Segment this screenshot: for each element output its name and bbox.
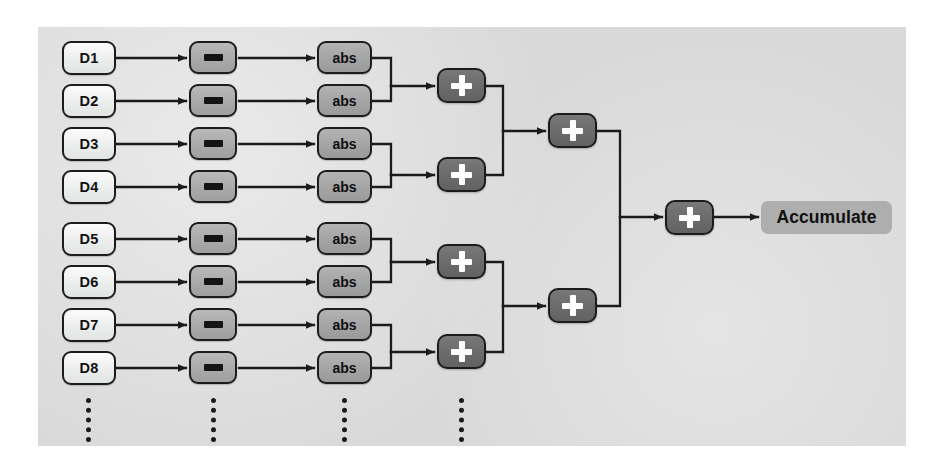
- subtract-node-5[interactable]: [189, 222, 237, 255]
- minus-icon: [204, 278, 223, 285]
- plus-icon: [562, 295, 583, 316]
- input-node-label: D2: [80, 94, 99, 109]
- accumulate-node[interactable]: Accumulate: [761, 201, 892, 234]
- input-node-label: D8: [80, 361, 99, 376]
- adder-stage1-node-1[interactable]: [437, 68, 486, 103]
- input-node-d3[interactable]: D3: [62, 127, 116, 161]
- subtract-node-8[interactable]: [189, 351, 237, 384]
- input-node-d6[interactable]: D6: [62, 265, 116, 299]
- inputs-ellipsis-icon: [86, 398, 96, 442]
- subtract-ellipsis-icon: [211, 398, 221, 442]
- minus-icon: [204, 235, 223, 242]
- input-node-d2[interactable]: D2: [62, 84, 116, 118]
- abs-node-label: abs: [332, 275, 356, 289]
- subtract-node-3[interactable]: [189, 127, 237, 160]
- abs-node-label: abs: [332, 137, 356, 151]
- adder-stage2-node-2[interactable]: [548, 288, 597, 323]
- subtract-node-2[interactable]: [189, 84, 237, 117]
- abs-node-1[interactable]: abs: [317, 41, 372, 74]
- plus-icon: [679, 207, 700, 228]
- plus-icon: [562, 120, 583, 141]
- plus-icon: [451, 75, 472, 96]
- input-node-d8[interactable]: D8: [62, 351, 116, 385]
- input-node-label: D5: [80, 232, 99, 247]
- abs-ellipsis-icon: [342, 398, 352, 442]
- adder-stage1-node-2[interactable]: [437, 157, 486, 192]
- minus-icon: [204, 54, 223, 61]
- plus-icon: [451, 341, 472, 362]
- adder-stage1-node-3[interactable]: [437, 244, 486, 279]
- subtract-node-4[interactable]: [189, 170, 237, 203]
- input-node-d4[interactable]: D4: [62, 170, 116, 204]
- adder-ellipsis-icon: [459, 398, 469, 442]
- abs-node-label: abs: [332, 361, 356, 375]
- minus-icon: [204, 321, 223, 328]
- abs-node-4[interactable]: abs: [317, 170, 372, 203]
- abs-node-label: abs: [332, 232, 356, 246]
- abs-node-8[interactable]: abs: [317, 351, 372, 384]
- input-node-label: D7: [80, 318, 99, 333]
- adder-stage2-node-1[interactable]: [548, 113, 597, 148]
- minus-icon: [204, 364, 223, 371]
- input-node-label: D6: [80, 275, 99, 290]
- abs-node-5[interactable]: abs: [317, 222, 372, 255]
- adder-stage3-node-1[interactable]: [665, 200, 714, 235]
- abs-node-label: abs: [332, 180, 356, 194]
- abs-node-label: abs: [332, 318, 356, 332]
- abs-node-3[interactable]: abs: [317, 127, 372, 160]
- plus-icon: [451, 251, 472, 272]
- input-node-label: D3: [80, 137, 99, 152]
- abs-node-6[interactable]: abs: [317, 265, 372, 298]
- subtract-node-7[interactable]: [189, 308, 237, 341]
- subtract-node-1[interactable]: [189, 41, 237, 74]
- abs-node-2[interactable]: abs: [317, 84, 372, 117]
- plus-icon: [451, 164, 472, 185]
- adder-stage1-node-4[interactable]: [437, 334, 486, 369]
- input-node-d5[interactable]: D5: [62, 222, 116, 256]
- input-node-d1[interactable]: D1: [62, 41, 116, 75]
- abs-node-7[interactable]: abs: [317, 308, 372, 341]
- subtract-node-6[interactable]: [189, 265, 237, 298]
- abs-node-label: abs: [332, 51, 356, 65]
- abs-node-label: abs: [332, 94, 356, 108]
- diagram-canvas: D1 D2 D3 D4 D5 D6 D7 D8: [0, 0, 944, 474]
- input-node-d7[interactable]: D7: [62, 308, 116, 342]
- minus-icon: [204, 183, 223, 190]
- minus-icon: [204, 97, 223, 104]
- accumulate-label: Accumulate: [776, 209, 876, 227]
- minus-icon: [204, 140, 223, 147]
- input-node-label: D4: [80, 180, 99, 195]
- input-node-label: D1: [80, 51, 99, 66]
